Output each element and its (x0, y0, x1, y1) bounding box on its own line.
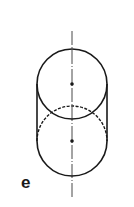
top-center-dot (70, 82, 74, 86)
bottom-center-dot (70, 139, 74, 143)
figure-label: e (21, 174, 30, 191)
